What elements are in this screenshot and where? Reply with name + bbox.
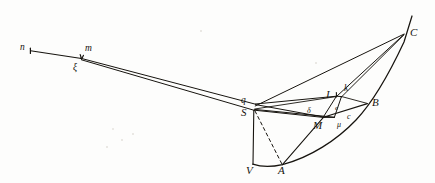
paper-grain-speck: [106, 146, 108, 148]
figure-vector-layer: [0, 0, 435, 183]
label-S: S: [241, 107, 247, 118]
label-B: B: [372, 97, 379, 108]
line-xi-to-S-lower: [82, 60, 255, 111]
label-M: M: [313, 120, 322, 131]
figure-canvas: n m ξ C I k B q S δ e c M μ V A: [0, 0, 435, 183]
line-C-to-k: [341, 35, 404, 98]
label-C: C: [410, 27, 417, 38]
paper-grain-speck: [200, 30, 202, 32]
line-n-to-xi: [31, 51, 82, 59]
label-A: A: [278, 165, 285, 176]
paper-grain-speck: [132, 133, 134, 135]
paper-grain-speck: [112, 128, 114, 130]
dashed-line-S-to-A: [255, 111, 282, 164]
label-V: V: [246, 165, 253, 176]
line-S-to-M: [254, 110, 323, 117]
label-q: q: [241, 96, 246, 106]
label-k: k: [344, 84, 348, 94]
label-mu: μ: [337, 121, 341, 129]
paper-grain-speck: [315, 62, 317, 64]
label-I: I: [326, 89, 330, 100]
label-c: c: [347, 113, 351, 121]
label-e: e: [335, 105, 338, 112]
label-m: m: [85, 44, 92, 54]
curve-V-A-B-C-parabola: [253, 16, 412, 166]
label-delta: δ: [307, 107, 311, 115]
line-S-to-V: [253, 110, 254, 164]
paper-grain-speck: [121, 139, 123, 141]
line-S-to-mu: [255, 109, 335, 117]
label-n: n: [20, 43, 25, 53]
line-xi-to-q-upper: [81, 58, 256, 104]
label-xi: ξ: [73, 63, 77, 73]
